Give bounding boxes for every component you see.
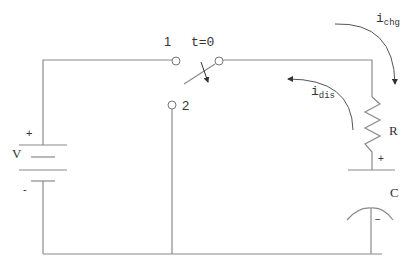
switch-node-2-label: 2	[182, 98, 189, 113]
switch-node-1-label: 1	[164, 34, 171, 49]
switch-node-common	[215, 57, 223, 65]
battery: + V -	[12, 127, 67, 254]
switch: 1 t=0 2	[164, 34, 223, 113]
capacitor-plus-label: +	[378, 153, 384, 164]
charge-current-arrow: ichg	[335, 11, 400, 84]
rc-circuit-diagram: + V - 1 t=0 2 R + − C	[0, 0, 413, 262]
wire-top-right	[223, 60, 372, 97]
switch-time-label: t=0	[191, 35, 214, 50]
charge-current-label: ichg	[376, 11, 400, 28]
wire-top-left	[43, 60, 172, 128]
battery-plus-label: +	[26, 127, 32, 139]
discharge-current-label: idis	[311, 84, 335, 101]
capacitor: + − C	[347, 153, 399, 254]
switch-node-2	[168, 101, 176, 109]
capacitor-minus-label: −	[375, 214, 381, 225]
capacitor-label: C	[390, 185, 399, 200]
battery-voltage-label: V	[12, 146, 22, 161]
resistor-label: R	[389, 123, 398, 138]
battery-minus-label: -	[23, 183, 27, 195]
discharge-current-arrow: idis	[288, 79, 353, 130]
switch-node-1	[172, 57, 180, 65]
